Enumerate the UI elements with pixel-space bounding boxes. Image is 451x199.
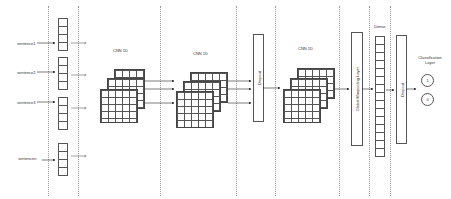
connector-arrows xyxy=(0,0,451,199)
